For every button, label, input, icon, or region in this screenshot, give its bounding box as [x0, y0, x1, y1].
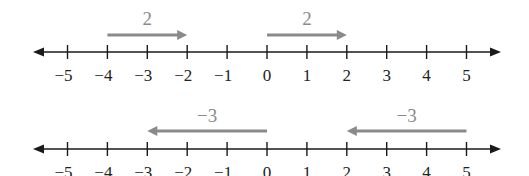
- tick-label: 1: [303, 66, 312, 85]
- tick-label: 4: [422, 66, 431, 85]
- tick-label: −1: [214, 66, 232, 85]
- tick-label: −1: [214, 163, 232, 176]
- jump-arrow: −3: [347, 105, 467, 136]
- tick-label: −2: [174, 163, 192, 176]
- tick-label: 3: [382, 66, 391, 85]
- tick-label: −3: [134, 163, 152, 176]
- tick-label: 0: [263, 66, 272, 85]
- right-arrowhead-icon: [490, 48, 501, 57]
- arrow-left-icon: [347, 126, 357, 136]
- arrow-left-icon: [147, 126, 157, 136]
- tick-label: 3: [382, 163, 391, 176]
- tick-label: 1: [303, 163, 312, 176]
- jump-arrow: 2: [267, 8, 347, 40]
- arrow-right-icon: [177, 30, 187, 40]
- jump-label: −3: [197, 105, 217, 126]
- jump-label: 2: [143, 8, 153, 29]
- tick-label: −5: [54, 66, 72, 85]
- tick-label: 0: [263, 163, 272, 176]
- tick-label: 2: [343, 163, 352, 176]
- jump-label: −3: [397, 105, 417, 126]
- tick-label: −3: [134, 66, 152, 85]
- tick-label: −4: [94, 163, 113, 176]
- tick-label: 5: [462, 163, 471, 176]
- jump-arrow: 2: [107, 8, 187, 40]
- left-arrowhead-icon: [33, 145, 44, 154]
- tick-label: −5: [54, 163, 72, 176]
- jump-label: 2: [302, 8, 312, 29]
- left-arrowhead-icon: [33, 48, 44, 57]
- number-line-diagram: −5−4−3−2−101234522−5−4−3−2−1012345−3−3: [0, 0, 529, 176]
- tick-label: −4: [94, 66, 113, 85]
- arrow-right-icon: [337, 30, 347, 40]
- tick-label: 5: [462, 66, 471, 85]
- number-line-bottom: −5−4−3−2−1012345−3−3: [33, 105, 501, 176]
- tick-label: 4: [422, 163, 431, 176]
- number-line-top: −5−4−3−2−101234522: [33, 8, 501, 85]
- tick-label: −2: [174, 66, 192, 85]
- jump-arrow: −3: [147, 105, 267, 136]
- tick-label: 2: [343, 66, 352, 85]
- right-arrowhead-icon: [490, 145, 501, 154]
